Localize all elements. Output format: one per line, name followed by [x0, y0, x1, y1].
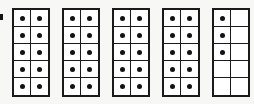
counter-dot-icon — [170, 84, 175, 89]
counter-dot-icon — [37, 67, 42, 72]
frame-cell-filled — [81, 27, 98, 44]
counter-dot-icon — [137, 50, 142, 55]
frame-cell-empty — [214, 61, 231, 78]
frame-cell-filled — [164, 10, 181, 27]
frame-cell-empty — [231, 44, 248, 61]
counter-dot-icon — [20, 50, 25, 55]
counter-dot-icon — [137, 33, 142, 38]
frame-cell-filled — [131, 10, 148, 27]
counter-dot-icon — [120, 50, 125, 55]
counter-dot-icon — [120, 33, 125, 38]
counter-dot-icon — [137, 16, 142, 21]
counter-dot-icon — [70, 50, 75, 55]
frame-cell-filled — [181, 44, 198, 61]
ten-frame-1 — [12, 8, 50, 97]
counter-dot-icon — [87, 50, 92, 55]
counter-dot-icon — [220, 16, 225, 21]
frame-cell-filled — [181, 10, 198, 27]
frame-cell-filled — [114, 44, 131, 61]
ten-frames-figure — [0, 0, 254, 104]
frame-cell-filled — [114, 61, 131, 78]
frame-cell-filled — [31, 10, 48, 27]
counter-dot-icon — [70, 33, 75, 38]
counter-dot-icon — [87, 84, 92, 89]
counter-dot-icon — [70, 16, 75, 21]
counter-dot-icon — [187, 50, 192, 55]
counter-dot-icon — [137, 67, 142, 72]
counter-dot-icon — [70, 84, 75, 89]
frame-cell-filled — [131, 61, 148, 78]
counter-dot-icon — [37, 84, 42, 89]
frame-cell-filled — [64, 78, 81, 95]
frame-cell-filled — [164, 44, 181, 61]
frame-cell-filled — [14, 10, 31, 27]
frame-cell-filled — [181, 27, 198, 44]
frame-cell-empty — [214, 78, 231, 95]
frame-cell-filled — [214, 44, 231, 61]
frame-cell-filled — [181, 61, 198, 78]
counter-dot-icon — [20, 16, 25, 21]
frame-cell-filled — [164, 78, 181, 95]
frame-cell-filled — [164, 61, 181, 78]
frame-cell-filled — [64, 10, 81, 27]
frame-cell-empty — [231, 61, 248, 78]
frame-cell-filled — [164, 27, 181, 44]
counter-dot-icon — [170, 50, 175, 55]
counter-dot-icon — [20, 84, 25, 89]
frame-cell-filled — [131, 44, 148, 61]
counter-dot-icon — [220, 50, 225, 55]
frame-cell-filled — [81, 61, 98, 78]
counter-dot-icon — [120, 16, 125, 21]
frame-cell-filled — [131, 27, 148, 44]
counter-dot-icon — [170, 33, 175, 38]
frame-cell-empty — [231, 10, 248, 27]
frame-cell-filled — [14, 78, 31, 95]
counter-dot-icon — [20, 67, 25, 72]
frame-cell-filled — [114, 27, 131, 44]
frame-cell-filled — [14, 27, 31, 44]
frame-cell-filled — [181, 78, 198, 95]
counter-dot-icon — [187, 16, 192, 21]
frame-cell-filled — [64, 61, 81, 78]
frame-cell-empty — [231, 78, 248, 95]
frame-cell-filled — [64, 44, 81, 61]
frame-cell-empty — [231, 27, 248, 44]
ten-frame-3 — [112, 8, 150, 97]
frame-cell-filled — [31, 27, 48, 44]
frame-cell-filled — [114, 78, 131, 95]
frame-cell-filled — [214, 27, 231, 44]
counter-dot-icon — [37, 33, 42, 38]
frame-cell-filled — [64, 27, 81, 44]
counter-dot-icon — [37, 16, 42, 21]
counter-dot-icon — [70, 67, 75, 72]
frame-cell-filled — [81, 44, 98, 61]
ten-frame-2 — [62, 8, 100, 97]
frame-cell-filled — [31, 44, 48, 61]
counter-dot-icon — [187, 84, 192, 89]
counter-dot-icon — [87, 67, 92, 72]
counter-dot-icon — [187, 67, 192, 72]
counter-dot-icon — [20, 33, 25, 38]
frame-cell-filled — [214, 10, 231, 27]
counter-dot-icon — [170, 67, 175, 72]
ten-frame-4 — [162, 8, 200, 97]
frame-cell-filled — [81, 78, 98, 95]
counter-dot-icon — [37, 50, 42, 55]
frame-cell-filled — [114, 10, 131, 27]
cropped-dot-artifact — [0, 14, 3, 20]
counter-dot-icon — [220, 33, 225, 38]
frame-cell-filled — [31, 61, 48, 78]
frame-cell-filled — [14, 44, 31, 61]
counter-dot-icon — [137, 84, 142, 89]
counter-dot-icon — [87, 16, 92, 21]
frame-cell-filled — [31, 78, 48, 95]
frame-cell-filled — [81, 10, 98, 27]
counter-dot-icon — [187, 33, 192, 38]
frame-cell-filled — [14, 61, 31, 78]
ten-frame-5 — [212, 8, 250, 97]
counter-dot-icon — [120, 84, 125, 89]
counter-dot-icon — [120, 67, 125, 72]
frame-cell-filled — [131, 78, 148, 95]
ten-frames-row — [12, 8, 250, 97]
counter-dot-icon — [87, 33, 92, 38]
